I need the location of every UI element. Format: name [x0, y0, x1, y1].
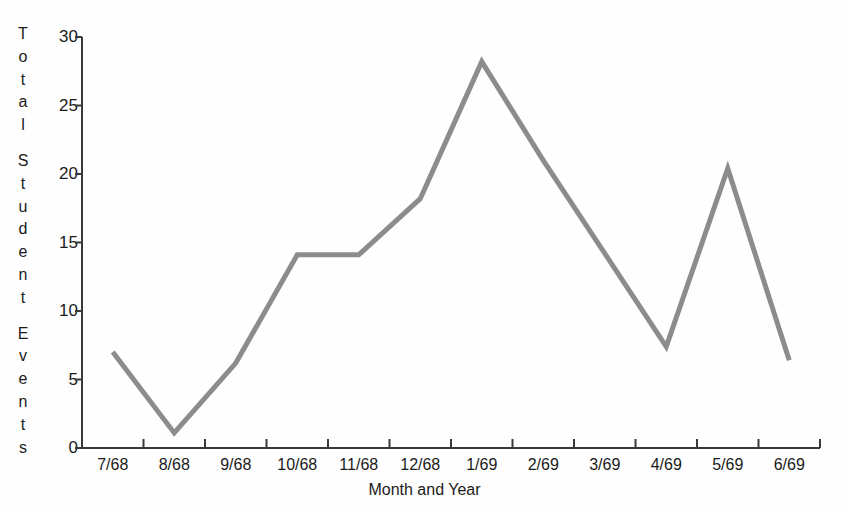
- chart-figure: TotalStudentEvents 051015202530 7/688/68…: [0, 0, 849, 509]
- x-tick-label: 11/68: [339, 456, 378, 474]
- x-tick-label: 6/69: [774, 456, 805, 474]
- x-tick-label: 4/69: [651, 456, 682, 474]
- x-tick-label: 7/68: [97, 456, 128, 474]
- x-tick-label: 5/69: [712, 456, 743, 474]
- x-tick-label: 9/68: [220, 456, 251, 474]
- x-tick-label: 10/68: [277, 456, 317, 474]
- x-tick-label: 8/68: [159, 456, 190, 474]
- x-axis-title: Month and Year: [0, 481, 849, 499]
- x-tick-label: 1/69: [466, 456, 497, 474]
- x-tick-label: 3/69: [589, 456, 620, 474]
- x-tick-label: 12/68: [400, 456, 440, 474]
- x-tick-label: 2/69: [528, 456, 559, 474]
- x-axis-tick-labels: 7/688/689/6810/6811/6812/681/692/693/694…: [0, 0, 849, 509]
